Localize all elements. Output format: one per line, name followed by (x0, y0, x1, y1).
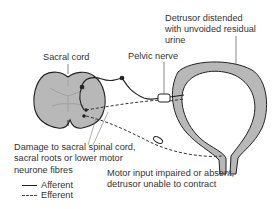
sacral-cord-section (34, 64, 105, 128)
legend-item-afferent: Afferent (22, 180, 73, 190)
detrusor-label-line-2: with unvoided residual (165, 24, 256, 35)
damage-label-line-3: neurone fibres (14, 165, 73, 176)
solid-line-icon (22, 185, 37, 186)
sacral-cord-label: Sacral cord (43, 52, 89, 63)
detrusor-label-line-3: urine (165, 35, 185, 46)
lesion-marker (152, 135, 163, 145)
pelvic-ganglion (158, 62, 170, 102)
legend-item-efferent: Efferent (22, 190, 73, 200)
motor-label-line-1: Motor input impaired or absent, (107, 168, 234, 179)
damage-label-line-1: Damage to sacral spinal cord, (14, 142, 136, 153)
legend-label: Efferent (41, 190, 73, 200)
pelvic-nerve-label: Pelvic nerve (128, 51, 178, 62)
motor-label-line-2: detrusor unable to contract (107, 179, 216, 190)
dashed-line-icon (22, 195, 37, 196)
damage-label-line-2: sacral roots or lower motor (14, 153, 123, 164)
legend-label: Afferent (41, 180, 73, 190)
detrusor-label-line-1: Detrusor distended (165, 13, 243, 24)
